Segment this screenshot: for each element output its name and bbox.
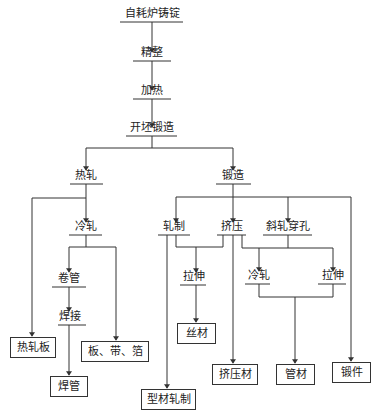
product-welded-tube: 焊管 (50, 376, 88, 397)
product-tube: 管材 (276, 364, 315, 385)
connector-lines (0, 0, 381, 416)
node-tube-rolling: 卷管 (58, 272, 80, 285)
node-drawing-left: 拉伸 (183, 270, 205, 283)
node-cold-rolling-right: 冷轧 (248, 269, 270, 282)
node-ingot: 自耗炉铸锭 (125, 7, 180, 20)
node-hot-rolling: 热轧 (75, 169, 97, 182)
product-forging-part: 锻件 (332, 362, 371, 383)
node-finishing: 精整 (141, 46, 163, 59)
flowchart-canvas: 自耗炉铸锭 精整 加热 开坯锻造 热轧 锻造 冷轧 卷管 焊接 轧制 挤压 斜轧… (0, 0, 381, 416)
node-billet-forging: 开坯锻造 (130, 121, 174, 134)
node-heating: 加热 (141, 84, 163, 97)
node-extrusion: 挤压 (221, 220, 243, 233)
product-wire: 丝材 (177, 323, 216, 344)
product-section-rolling: 型材轧制 (141, 389, 196, 410)
node-welding: 焊接 (59, 310, 81, 323)
product-extruded-profile: 挤压材 (212, 364, 258, 385)
node-cross-piercing: 斜轧穿孔 (266, 220, 310, 233)
node-drawing-right: 拉伸 (322, 269, 344, 282)
node-rolling: 轧制 (163, 220, 185, 233)
node-forging: 锻造 (222, 169, 244, 182)
node-cold-rolling-left: 冷轧 (75, 220, 97, 233)
product-hot-rolled-plate: 热轧板 (10, 337, 56, 358)
product-plate-strip-foil: 板、带、箔 (81, 341, 149, 362)
